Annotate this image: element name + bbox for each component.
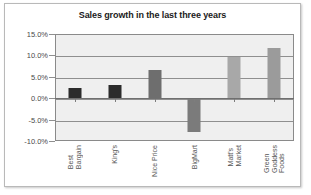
y-axis-tick-label: -10.0% <box>24 137 48 146</box>
y-axis-tick-mark <box>49 77 55 78</box>
y-axis-tick-mark <box>49 120 55 121</box>
x-axis-category-labels: Best BargainKing'sNice PriceBigMartMatt'… <box>55 145 294 189</box>
bar-slot <box>175 34 215 141</box>
x-axis-category-label: Nice Price <box>135 145 175 189</box>
bar-slot <box>214 34 254 141</box>
category-label-text: Best Bargain <box>67 145 82 169</box>
bar <box>108 85 121 98</box>
bar-slot <box>135 34 175 141</box>
bars-layer <box>55 34 294 141</box>
bar <box>268 48 281 99</box>
chart-card: Sales growth in the last three years Bes… <box>4 3 301 187</box>
y-axis-tick-label: -5.0% <box>28 115 48 124</box>
category-label-text: King's <box>111 145 119 164</box>
x-axis-category-label: BigMart <box>174 145 214 189</box>
bar <box>148 70 161 98</box>
x-axis-category-label: Green Goddess Foods <box>254 145 294 189</box>
category-label-text: Nice Price <box>151 145 159 177</box>
y-axis-tick-mark <box>49 34 55 35</box>
bar-slot <box>55 34 95 141</box>
x-axis-category-label: King's <box>95 145 135 189</box>
y-axis-tick-mark <box>49 141 55 142</box>
chart-title: Sales growth in the last three years <box>5 10 300 20</box>
y-axis-tick-label: 5.0% <box>31 72 48 81</box>
bar <box>188 98 201 131</box>
y-axis-tick-label: 0.0% <box>31 94 48 103</box>
category-label-text: BigMart <box>191 145 199 169</box>
x-axis-category-label: Best Bargain <box>55 145 95 189</box>
bar-slot <box>95 34 135 141</box>
zero-baseline <box>55 98 294 99</box>
x-axis-category-label: Matt's Market <box>214 145 254 189</box>
y-axis-tick-label: 15.0% <box>27 30 48 39</box>
category-label-text: Matt's Market <box>227 145 242 166</box>
bar <box>68 88 81 98</box>
bar-slot <box>254 34 294 141</box>
bar <box>228 57 241 99</box>
y-axis-tick-label: 10.0% <box>27 51 48 60</box>
y-axis-tick-mark <box>49 55 55 56</box>
category-label-text: Green Goddess Foods <box>263 145 286 173</box>
